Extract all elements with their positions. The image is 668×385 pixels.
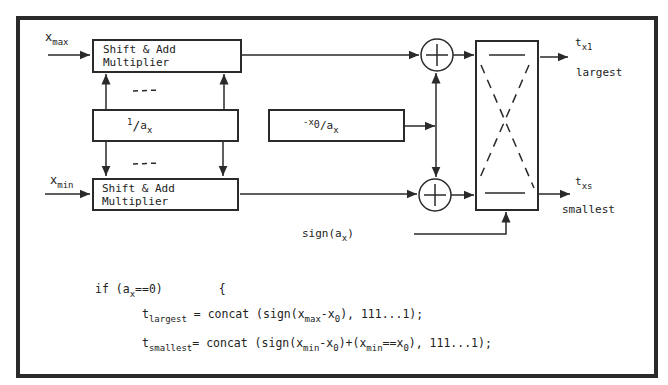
largest-b: -x	[321, 307, 335, 321]
output-largest-caption: largest	[576, 66, 622, 79]
smallest-b: -x	[319, 336, 333, 350]
txs-sub: xs	[582, 181, 593, 191]
smallest-bsub: 0	[333, 343, 338, 353]
xmin-sub: min	[57, 180, 73, 190]
smallest-e: ), 111...1);	[409, 336, 492, 350]
code-if-post: ==0)	[135, 282, 163, 296]
largest-bsub: 0	[335, 314, 340, 324]
sign-sub: x	[342, 233, 347, 243]
txs-base: t	[575, 175, 582, 188]
smallest-c: )+(x	[339, 336, 367, 350]
smallest-d: ==x	[383, 336, 404, 350]
reciprocal-slash: /	[132, 118, 140, 133]
output-tx1-label: tx1	[575, 36, 592, 49]
input-xmax-label: xmax	[45, 30, 69, 44]
offset-block: -x0/ax	[268, 109, 405, 142]
reciprocal-base: a	[140, 119, 147, 132]
code-if-pre: if (a	[95, 282, 130, 296]
input-xmin-label: xmin	[50, 173, 74, 187]
tx1-base: t	[575, 36, 582, 49]
code-line-largest: tlargest = concat (sign(xmax-x0), 111...…	[142, 307, 423, 321]
largest-tsub: largest	[149, 314, 187, 324]
offset-pre: -x	[303, 117, 314, 127]
top-shift-add-multiplier: Shift & Add Multiplier	[92, 39, 242, 73]
tx1-sub: x1	[582, 42, 593, 52]
output-smallest-caption: smallest	[562, 203, 615, 216]
bottom-shift-add-multiplier: Shift & Add Multiplier	[92, 178, 239, 211]
largest-a: = concat (sign(x	[187, 307, 305, 321]
smallest-asub: min	[303, 343, 319, 353]
reciprocal-block: 1/ax	[92, 109, 239, 142]
output-txs-label: txs	[575, 175, 592, 188]
sign-post: )	[347, 227, 354, 240]
smallest-a: = concat (sign(x	[192, 336, 303, 350]
sign-pre: sign(a	[302, 227, 342, 240]
largest-c: ), 111...1);	[340, 307, 423, 321]
code-if-sub: x	[130, 289, 135, 299]
smallest-dsub: 0	[403, 343, 408, 353]
offset-slash: /a	[320, 119, 333, 132]
code-line-smallest: tsmallest= concat (sign(xmin-x0)+(xmin==…	[142, 336, 492, 350]
smallest-t: t	[142, 336, 149, 350]
sign-ax-label: sign(ax)	[302, 227, 354, 240]
largest-t: t	[142, 307, 149, 321]
smallest-csub: min	[366, 343, 382, 353]
bottom-multiplier-label: Shift & Add Multiplier	[102, 182, 237, 208]
xmax-sub: max	[52, 37, 68, 47]
largest-asub: max	[305, 314, 321, 324]
reciprocal-sub: x	[147, 125, 152, 135]
top-multiplier-label: Shift & Add Multiplier	[103, 43, 240, 69]
reciprocal-numerator: 1	[127, 117, 132, 127]
smallest-tsub: smallest	[149, 343, 192, 353]
code-line-if: if (ax==0){	[95, 282, 226, 296]
offset-sub0: 0	[314, 119, 320, 130]
code-brace: {	[219, 282, 226, 296]
offset-sub: x	[333, 125, 338, 135]
